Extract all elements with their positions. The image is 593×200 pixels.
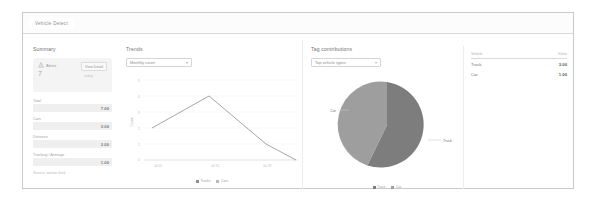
summary-note: Source: sensor feed (33, 171, 112, 175)
tag-table-column: Vehicle Value Truck 3.00 Car 1.00 (463, 46, 567, 189)
metric-value: 7.00 (101, 106, 109, 111)
legend-item: Cars (216, 179, 228, 183)
x-tick-label: Jul 15 (211, 164, 220, 168)
dashboard-content: Summary Alerts 7 View Detail t (23, 34, 573, 189)
trends-legend: Trucks Cars (126, 179, 298, 183)
tab-bar: Vehicle Detect (23, 13, 573, 34)
trends-dropdown-value: Monthly count (130, 60, 155, 65)
alert-count: 7 (38, 70, 71, 78)
legend-swatch-icon (373, 186, 376, 189)
tab-vehicle-detect[interactable]: Vehicle Detect (29, 18, 74, 29)
y-tick-label: 5 (138, 79, 140, 83)
pie-label-truck: Truck (443, 139, 452, 143)
metric-label: Tracking / Average (33, 153, 112, 157)
alert-sub-label: today (84, 74, 93, 78)
metric-value: 1.00 (101, 160, 109, 165)
summary-panel: Summary Alerts 7 View Detail t (23, 40, 120, 189)
tag-chart-column: Tag contributions Top vehicle types ▾ Tr… (311, 46, 463, 189)
metric-row: Tracking / Average 1.00 (33, 153, 112, 166)
tag-contributions-panel: Tag contributions Top vehicle types ▾ Tr… (302, 40, 573, 189)
legend-swatch-icon (196, 180, 199, 183)
metric-bar: 3.00 (33, 122, 112, 130)
tags-dropdown-value: Top vehicle types (315, 60, 346, 65)
metric-label: Total (33, 99, 112, 103)
legend-item: Truck (373, 185, 386, 189)
cell-vehicle-value: 1.00 (525, 69, 567, 79)
warning-triangle-icon (38, 62, 44, 68)
y-tick-label: 3 (138, 111, 140, 115)
metric-bar: 2.00 (33, 140, 112, 148)
metric-bar: 7.00 (33, 104, 112, 112)
legend-label: Car (396, 185, 401, 189)
table-row[interactable]: Truck 3.00 (471, 59, 567, 70)
alert-head-label: Alerts (46, 63, 56, 68)
tags-type-dropdown[interactable]: Top vehicle types ▾ (311, 58, 381, 67)
alert-card-right: View Detail today (71, 62, 107, 78)
tag-pie-chart: Truck Car Truck Car (311, 74, 463, 192)
trends-panel: Trends Monthly count ▾ 5 4 (120, 40, 302, 189)
legend-item: Trucks (196, 179, 211, 183)
alert-card-head: Alerts (38, 62, 71, 68)
legend-swatch-icon (216, 180, 219, 183)
metric-value: 2.00 (101, 142, 109, 147)
cell-vehicle-name: Car (471, 69, 525, 79)
pie-legend: Truck Car (311, 185, 463, 189)
metric-value: 3.00 (101, 124, 109, 129)
legend-label: Cars (221, 179, 228, 183)
metric-label: Distance (33, 135, 112, 139)
y-axis-label: Count (130, 117, 134, 126)
alert-card: Alerts 7 View Detail today (33, 58, 112, 92)
view-detail-button[interactable]: View Detail (81, 62, 107, 71)
trends-title: Trends (126, 46, 298, 52)
metric-bar: 1.00 (33, 158, 112, 166)
legend-swatch-icon (391, 186, 394, 189)
chevron-down-icon: ▾ (186, 61, 188, 65)
pie-chart-svg: Truck Car (311, 74, 463, 184)
legend-label: Truck (377, 185, 385, 189)
legend-label: Trucks (200, 179, 210, 183)
x-tick-label: Jul 29 (263, 164, 272, 168)
legend-item: Car (391, 185, 401, 189)
metric-row: Distance 2.00 (33, 135, 112, 148)
line-chart-svg: 5 4 3 2 1 0 Count Jul 01 Jul 15 Jul 29 (126, 74, 300, 178)
tag-table: Vehicle Value Truck 3.00 Car 1.00 (471, 52, 567, 79)
y-tick-label: 0 (138, 158, 140, 162)
pie-label-car: Car (330, 109, 337, 113)
summary-title: Summary (33, 46, 112, 52)
trends-line-chart: 5 4 3 2 1 0 Count Jul 01 Jul 15 Jul 29 (126, 74, 298, 192)
alert-card-left: Alerts 7 (38, 62, 71, 78)
app-window: Vehicle Detect Summary Alerts 7 (22, 12, 574, 189)
y-tick-label: 1 (138, 143, 140, 147)
metric-row: Total 7.00 (33, 99, 112, 112)
cell-vehicle-value: 3.00 (525, 59, 567, 70)
metric-label: Cars (33, 117, 112, 121)
cell-vehicle-name: Truck (471, 59, 525, 70)
tags-title: Tag contributions (311, 46, 463, 52)
y-tick-label: 4 (138, 95, 140, 99)
y-tick-label: 2 (138, 127, 140, 131)
metric-row: Cars 3.00 (33, 117, 112, 130)
trends-metric-dropdown[interactable]: Monthly count ▾ (126, 58, 192, 67)
tag-table-body: Truck 3.00 Car 1.00 (471, 59, 567, 80)
x-tick-label: Jul 01 (154, 164, 163, 168)
chevron-down-icon: ▾ (375, 61, 377, 65)
table-row[interactable]: Car 1.00 (471, 69, 567, 79)
